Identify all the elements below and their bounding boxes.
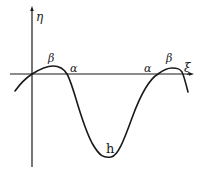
beta-left-label: β — [47, 52, 54, 65]
alpha-right-label: α — [144, 62, 152, 75]
trough-h-label: h — [106, 141, 115, 156]
wave-curve — [15, 66, 188, 157]
eta-label: η — [36, 10, 44, 24]
wave-profile-diagram: η ξ β α α β h — [0, 0, 201, 174]
eta-axis-arrow-icon — [30, 6, 34, 11]
alpha-left-label: α — [70, 62, 78, 75]
beta-right-label: β — [165, 52, 172, 65]
